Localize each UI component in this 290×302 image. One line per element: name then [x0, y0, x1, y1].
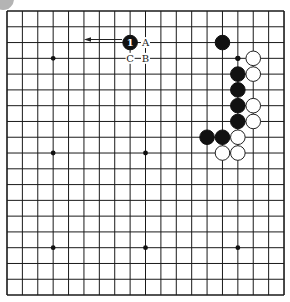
star-point	[51, 151, 56, 156]
corner-decoration-circle	[0, 0, 14, 10]
black-stone	[231, 114, 246, 129]
point-label-a: A	[141, 37, 150, 48]
star-point	[143, 245, 148, 250]
go-board: ABC 1	[0, 0, 290, 302]
star-point	[51, 245, 56, 250]
markers	[235, 56, 240, 61]
star-point	[143, 151, 148, 156]
point-label-c: C	[126, 53, 134, 64]
white-stone	[246, 67, 261, 82]
black-stone	[231, 83, 246, 98]
white-stone	[246, 114, 261, 129]
black-stone	[215, 130, 230, 145]
move-arrow	[84, 37, 122, 41]
star-point	[51, 56, 56, 61]
white-stone	[246, 51, 261, 66]
black-stone	[231, 67, 246, 82]
star-point	[235, 245, 240, 250]
black-stone	[200, 130, 215, 145]
black-stone	[215, 35, 230, 50]
black-stone	[231, 98, 246, 113]
white-stone	[246, 98, 261, 113]
arrow-head-icon	[84, 37, 91, 41]
white-stone	[231, 130, 246, 145]
white-stone	[215, 146, 230, 161]
white-stone	[231, 146, 246, 161]
point-label-b: B	[142, 53, 149, 64]
move-number: 1	[127, 37, 134, 48]
small-dot-marker	[235, 56, 240, 61]
